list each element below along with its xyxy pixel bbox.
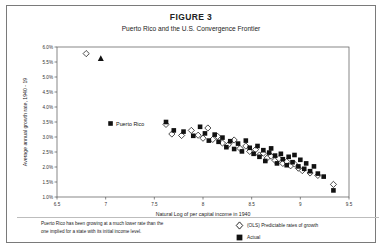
data-point-actual [267, 150, 272, 155]
data-point-actual [321, 174, 326, 179]
data-point-ols [205, 125, 211, 131]
data-point-actual [244, 138, 249, 143]
x-tick-label: 6.5 [54, 202, 61, 207]
data-point-actual [247, 146, 252, 151]
x-tick-label: 8 [202, 202, 205, 207]
data-point-actual [257, 155, 262, 160]
data-point-actual [308, 169, 313, 174]
data-point-actual [263, 159, 268, 164]
data-point-actual [281, 157, 286, 162]
data-point-actual [251, 152, 256, 157]
data-point-actual [172, 128, 177, 133]
data-point-actual [316, 171, 321, 176]
legend-label-ols: (OLS) Predictable rates of growth [247, 223, 318, 228]
data-point-actual [198, 125, 203, 130]
legend-item-ols: (OLS) Predictable rates of growth [235, 221, 375, 230]
data-point-actual [261, 148, 266, 153]
annotation-puerto-rico: Puerto Rico [116, 121, 144, 127]
data-point-actual [304, 161, 309, 166]
data-point-actual [302, 167, 307, 172]
data-point-actual [212, 132, 217, 137]
data-point-actual [286, 155, 291, 160]
data-point-ols [188, 127, 194, 133]
y-tick-label: 2.0% [43, 165, 53, 170]
y-tick-label: 2.5% [43, 150, 53, 155]
data-point-actual [296, 164, 301, 169]
y-tick-label: 5.0% [43, 75, 53, 80]
data-point-actual [181, 129, 186, 134]
data-point-actual [312, 164, 317, 169]
data-point-actual [108, 121, 113, 126]
x-tick-label: 8.5 [248, 202, 255, 207]
y-tick-label: 1.0% [43, 195, 53, 200]
filled-square-icon [235, 233, 244, 242]
footnote: Puerto Rico has been growing at a much l… [41, 220, 216, 237]
data-point-actual [228, 139, 233, 144]
data-point-actual [232, 147, 237, 152]
footnote-line-1: Puerto Rico has been growing at a much l… [41, 220, 216, 228]
data-point-actual [236, 141, 241, 146]
data-point-actual [284, 163, 289, 168]
data-point-actual [269, 146, 274, 151]
y-tick-label: 3.0% [43, 135, 53, 140]
data-point-outlier [98, 55, 104, 61]
x-tick-label: 9 [299, 202, 302, 207]
data-point-actual [203, 131, 208, 136]
chart-legend: (OLS) Predictable rates of growth Actual [235, 221, 375, 245]
legend-item-actual: Actual [235, 233, 375, 242]
x-tick-label: 7 [104, 202, 107, 207]
data-point-actual [220, 135, 225, 140]
y-tick-label: 5.5% [43, 60, 53, 65]
figure-frame: FIGURE 3 Puerto Rico and the U.S. Conver… [6, 5, 376, 243]
data-point-actual [279, 152, 284, 157]
footnote-line-2: one implied for a state with its initial… [41, 228, 216, 236]
data-point-actual [275, 161, 280, 166]
plot-area-border [57, 47, 349, 197]
scatter-chart: 1.0%1.5%2.0%2.5%3.0%3.5%4.0%4.5%5.0%5.5%… [7, 6, 377, 244]
data-point-actual [290, 160, 295, 165]
data-point-actual [240, 149, 245, 154]
y-tick-label: 4.0% [43, 105, 53, 110]
data-point-actual [255, 144, 260, 149]
y-tick-label: 3.5% [43, 120, 53, 125]
open-diamond-icon [235, 221, 244, 230]
data-point-ols [330, 181, 336, 187]
data-point-actual [191, 134, 196, 139]
data-point-actual [224, 145, 229, 150]
data-point-actual [331, 188, 336, 193]
data-point-actual [216, 140, 221, 145]
legend-label-actual: Actual [247, 235, 260, 240]
data-point-actual [298, 158, 303, 163]
x-tick-label: 9.5 [346, 202, 353, 207]
data-point-ols [83, 51, 89, 57]
data-point-actual [292, 153, 297, 158]
data-point-actual [273, 153, 278, 158]
x-tick-label: 7.5 [151, 202, 158, 207]
y-tick-label: 1.5% [43, 180, 53, 185]
y-axis-title: Average annual growth rate, 1940 - 19 [22, 78, 28, 167]
footer-divider [17, 217, 379, 218]
data-point-actual [207, 138, 212, 143]
data-point-actual [164, 120, 169, 125]
y-tick-label: 6.0% [43, 45, 53, 50]
y-tick-label: 4.5% [43, 90, 53, 95]
